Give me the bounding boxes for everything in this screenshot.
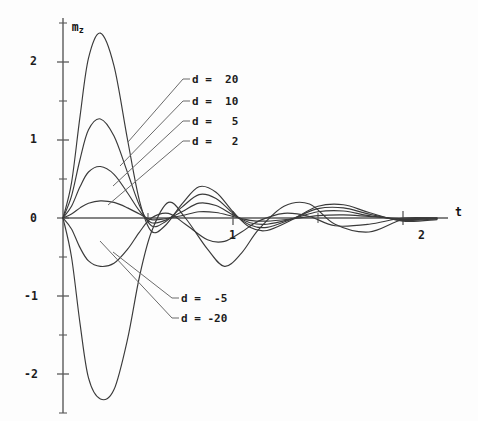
plot-canvas [0, 0, 478, 421]
curve-d-20 [63, 202, 437, 400]
legend-d-5: d = 5 [192, 115, 238, 128]
legend-d-neg5: d = -5 [181, 292, 227, 305]
legend-d-neg20: d = -20 [181, 312, 227, 325]
x-axis-label: t [455, 205, 462, 219]
y-tick-label-neg1: -1 [24, 289, 38, 303]
y-axis-subscript-text: z [79, 25, 84, 35]
y-tick-label-2: 2 [30, 54, 37, 68]
leader-d-neg20 [100, 241, 179, 318]
legend-d-2: d = 2 [192, 135, 238, 148]
curve-d20 [63, 33, 437, 233]
x-tick-label-1: 1 [229, 228, 236, 242]
y-axis-label-text: m [72, 20, 79, 34]
leader-d-neg5 [113, 252, 179, 298]
y-tick-label-0: 0 [30, 211, 37, 225]
legend-d-10: d = 10 [192, 95, 238, 108]
curve-d10 [63, 119, 437, 228]
curve-d-5 [63, 213, 437, 266]
y-axis-label: mz [44, 6, 84, 49]
leader-d-20 [128, 79, 190, 142]
axes-group [63, 18, 448, 413]
legend-d-20: d = 20 [192, 73, 238, 86]
curve-series-group [63, 33, 437, 400]
x-tick-label-2: 2 [418, 228, 425, 242]
chart-figure: mz t 2 1 0 -1 -2 1 2 d = 20 d = 10 d = 5… [0, 0, 478, 421]
leader-lines-group [100, 79, 190, 318]
y-tick-label-neg2: -2 [24, 367, 38, 381]
y-tick-label-1: 1 [30, 132, 37, 146]
leader-d-5 [113, 121, 190, 186]
